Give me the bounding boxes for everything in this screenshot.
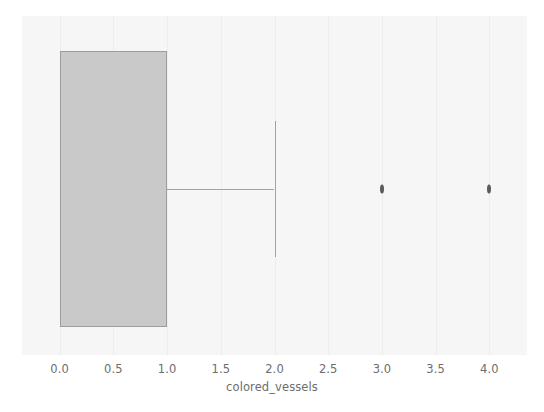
x-tick-label: 0.0 [50,362,69,376]
x-tick-label: 4.0 [480,362,499,376]
x-tick-label: 0.5 [104,362,123,376]
gridline-vertical [328,16,329,355]
gridline-vertical [221,16,222,355]
outlier-point [487,185,491,194]
x-tick-label: 2.0 [265,362,284,376]
x-tick-label: 1.5 [211,362,230,376]
whisker-cap-upper [275,121,276,257]
outlier-point [380,185,384,194]
boxplot-figure: colored_vessels 0.00.51.01.52.02.53.03.5… [0,0,544,412]
x-tick-label: 2.5 [319,362,338,376]
x-tick-label: 3.0 [373,362,392,376]
x-axis-label: colored_vessels [226,380,318,394]
whisker-line-upper [167,189,274,190]
x-tick-label: 1.0 [158,362,177,376]
x-tick-label: 3.5 [426,362,445,376]
gridline-vertical [167,16,168,355]
plot-area [22,16,527,355]
box-quartile-range [60,51,167,327]
gridline-vertical [436,16,437,355]
